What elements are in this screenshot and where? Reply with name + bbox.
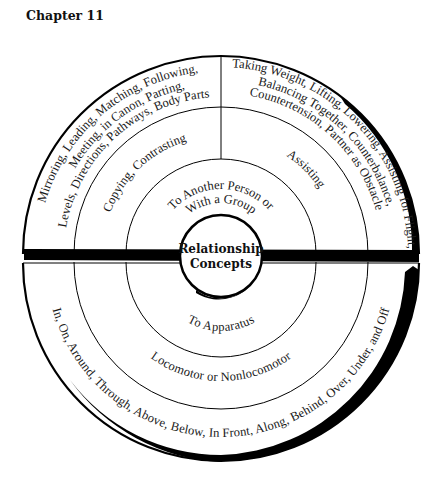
center-label-line2: Concepts <box>190 257 252 271</box>
center-label-line1: Relationship <box>178 242 263 256</box>
relationship-concepts-diagram: Relationship Concepts To Another Person … <box>0 0 438 485</box>
